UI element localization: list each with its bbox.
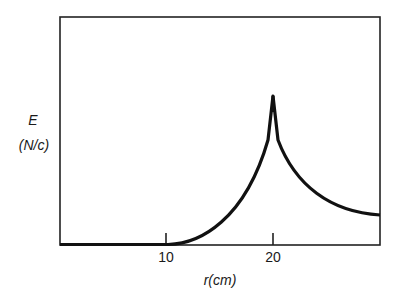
- plot-frame: [60, 17, 380, 245]
- x-axis-label: r(cm): [204, 272, 237, 288]
- field-vs-radius-chart: 10 20 r(cm) E (N/c): [0, 0, 399, 306]
- tick-label-20: 20: [265, 249, 281, 265]
- y-axis-units: (N/c): [19, 137, 49, 153]
- field-curve: [60, 96, 380, 245]
- tick-label-10: 10: [158, 249, 174, 265]
- y-axis-label: E: [28, 112, 38, 128]
